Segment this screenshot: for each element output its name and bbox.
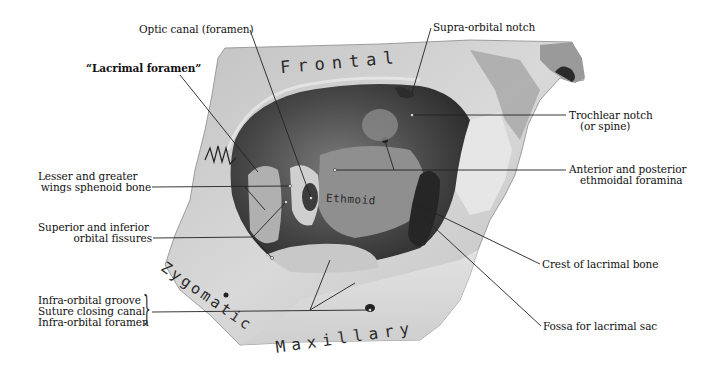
label-trochlear-notch-line2: (or spine) — [569, 121, 653, 132]
label-crest-lacrimal-bone: Crest of lacrimal bone — [542, 259, 658, 270]
label-ethmoidal-foramina-line2: ethmoidal foramina — [569, 175, 686, 186]
bone-label-ethmoid: Ethmoid — [326, 192, 376, 208]
label-optic-canal: Optic canal (foramen) — [139, 24, 254, 35]
label-infra-orbital-foramen: Infra-orbital foramen — [38, 317, 149, 328]
label-infra-orbital-group: Infra-orbital groove Suture closing cana… — [38, 295, 149, 328]
brace-icon: } — [143, 290, 151, 324]
label-sphenoid-wings: Lesser and greater wings sphenoid bone — [38, 171, 151, 193]
label-orbital-fissures-line2: orbital fissures — [38, 233, 152, 244]
label-ethmoidal-foramina: Anterior and posterior ethmoidal foramin… — [569, 164, 686, 186]
label-sphenoid-wings-line2: wings sphenoid bone — [38, 182, 151, 193]
label-trochlear-notch: Trochlear notch (or spine) — [569, 110, 653, 132]
label-orbital-fissures: Superior and inferior orbital fissures — [38, 222, 152, 244]
label-lacrimal-foramen: “Lacrimal foramen” — [86, 63, 201, 74]
label-supra-orbital-notch: Supra-orbital notch — [433, 22, 535, 33]
label-fossa-lacrimal-sac: Fossa for lacrimal sac — [543, 321, 657, 332]
